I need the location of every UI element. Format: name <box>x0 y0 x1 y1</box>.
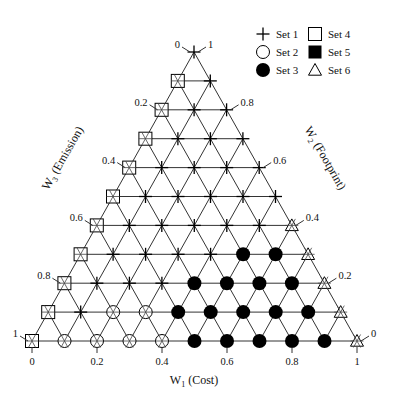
data-point-set1 <box>237 190 250 203</box>
open-circle-icon <box>257 46 270 59</box>
data-point-set1 <box>188 103 201 116</box>
data-point-set1 <box>220 161 233 174</box>
open-triangle-icon <box>309 64 322 76</box>
filled-circle-icon <box>220 334 234 348</box>
data-point-set1 <box>188 219 201 232</box>
data-point-set6 <box>334 306 347 319</box>
data-point-set4 <box>171 74 184 87</box>
data-point-set2 <box>107 306 120 319</box>
legend-label: Set 3 <box>276 64 299 76</box>
w3-tick-label: 0.8 <box>37 270 50 281</box>
w1-tick-label: 0.8 <box>285 356 298 367</box>
w1-tick-label: 0.2 <box>90 356 103 367</box>
grid-line-diagonal <box>178 81 325 341</box>
legend-label: Set 2 <box>276 46 298 58</box>
w2-axis-title: W2 (Footprint) <box>300 124 349 193</box>
filled-circle-icon <box>171 305 185 319</box>
data-point-set3 <box>220 334 234 348</box>
data-point-set1 <box>90 277 103 290</box>
filled-circle-icon <box>236 305 250 319</box>
w3-tick-label: 1 <box>13 328 18 339</box>
legend-item-set3: Set 3 <box>256 63 299 77</box>
filled-circle-icon <box>252 276 266 290</box>
data-point-set1 <box>253 219 266 232</box>
data-point-set1 <box>123 277 136 290</box>
data-point-set3 <box>204 305 218 319</box>
filled-circle-icon <box>220 276 234 290</box>
w2-tick-mark <box>328 278 336 283</box>
legend-item-set2: Set 2 <box>257 46 299 59</box>
w2-tick-label: 0.8 <box>241 97 254 108</box>
data-point-set1 <box>171 132 184 145</box>
ternary-plot-canvas: 00.20.40.60.8100.20.40.60.8100.20.40.60.… <box>0 0 393 398</box>
w3-axis-title: W3 (Emission) <box>39 124 88 193</box>
data-point-set4 <box>74 248 87 261</box>
data-point-set1 <box>204 190 217 203</box>
filled-circle-icon <box>285 276 299 290</box>
data-point-set3 <box>236 305 250 319</box>
legend-item-set1: Set 1 <box>257 28 299 41</box>
legend-label: Set 4 <box>328 28 351 40</box>
grid-line-diagonal <box>260 254 309 341</box>
data-point-set1 <box>139 248 152 261</box>
data-point-set3 <box>171 305 185 319</box>
w2-tick-mark <box>296 220 304 225</box>
data-point-set2 <box>123 335 136 348</box>
w2-tick-label: 1 <box>208 39 213 50</box>
data-point-set4 <box>139 132 152 145</box>
filled-circle-icon <box>269 247 283 261</box>
filled-circle-icon <box>301 305 315 319</box>
legend-label: Set 1 <box>276 28 298 40</box>
filled-circle-icon <box>236 247 250 261</box>
data-point-set1 <box>123 219 136 232</box>
w2-tick-label: 0.2 <box>338 270 351 281</box>
w1-tick-label: 0.6 <box>220 356 233 367</box>
data-point-set1 <box>155 161 168 174</box>
legend-marker <box>256 63 270 77</box>
data-point-set3 <box>285 276 299 290</box>
filled-circle-icon <box>187 276 201 290</box>
legend-item-set4: Set 4 <box>309 28 351 41</box>
legend-label: Set 5 <box>328 46 351 58</box>
w3-tick-label: 0.6 <box>70 212 83 223</box>
data-point-set3 <box>188 334 202 348</box>
legend-item-set5: Set 5 <box>309 46 351 59</box>
data-point-set1 <box>172 190 185 203</box>
data-point-set1 <box>155 219 168 232</box>
w2-tick-label: 0 <box>371 328 376 339</box>
data-point-set1 <box>74 306 87 319</box>
w2-tick-mark <box>361 336 369 341</box>
data-point-set1 <box>236 132 249 145</box>
data-point-set3 <box>220 276 234 290</box>
w3-tick-label: 0 <box>175 39 180 50</box>
data-point-set1 <box>155 277 168 290</box>
data-point-set2 <box>91 335 104 348</box>
axis-ticks: 00.20.40.60.8100.20.40.60.8100.20.40.60.… <box>13 39 377 367</box>
filled-square-icon <box>309 46 322 59</box>
data-point-set3 <box>269 247 283 261</box>
w2-tick-label: 0.6 <box>273 155 286 166</box>
data-point-set4 <box>107 190 120 203</box>
data-point-set2 <box>156 335 169 348</box>
data-point-set1 <box>220 219 233 232</box>
legend-item-set6: Set 6 <box>309 64 351 77</box>
w2-tick-label: 0.4 <box>306 212 320 223</box>
data-point-set1 <box>204 248 217 261</box>
data-point-set1 <box>107 248 120 261</box>
data-point-set3 <box>252 276 266 290</box>
data-point-set1 <box>204 132 217 145</box>
triangle-grid <box>32 52 357 341</box>
legend-marker <box>309 28 322 41</box>
data-point-set1 <box>269 190 282 203</box>
ternary-diagram: 00.20.40.60.8100.20.40.60.8100.20.40.60.… <box>0 0 393 398</box>
data-point-set1 <box>139 190 152 203</box>
legend-label: Set 6 <box>328 64 351 76</box>
legend-marker <box>257 28 270 41</box>
data-point-set1 <box>188 161 201 174</box>
data-point-set3 <box>285 334 299 348</box>
data-point-set3 <box>269 305 283 319</box>
filled-circle-icon <box>318 334 332 348</box>
legend: Set 1Set 2Set 3Set 4Set 5Set 6 <box>256 28 351 78</box>
w3-tick-label: 0.2 <box>134 97 147 108</box>
filled-circle-icon <box>285 334 299 348</box>
